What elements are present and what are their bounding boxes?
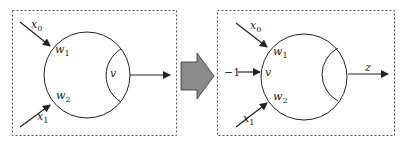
right-w1-label: w1 <box>273 45 288 60</box>
right-x0-label: x0 <box>250 19 261 34</box>
right-v-weight-label: v <box>265 66 272 79</box>
left-x1-label: x1 <box>37 110 48 125</box>
right-panel: x0 w1 −1 v w2 x1 z <box>218 11 395 136</box>
right-activation-arc <box>322 48 338 101</box>
right-bias-input-label: −1 <box>224 66 240 79</box>
left-panel: x0 w1 w2 x1 v <box>13 11 177 136</box>
neuron-diagram: x0 w1 w2 x1 v x0 w1 −1 v w2 x1 z <box>0 0 401 141</box>
transform-right-arrow-icon <box>181 53 214 99</box>
left-w1-label: w1 <box>55 43 70 58</box>
left-w2-label: w2 <box>56 89 71 104</box>
right-w2-label: w2 <box>273 90 288 105</box>
left-x0-label: x0 <box>31 18 42 33</box>
left-threshold-label: v <box>110 67 117 80</box>
right-output-z-label: z <box>364 61 371 74</box>
